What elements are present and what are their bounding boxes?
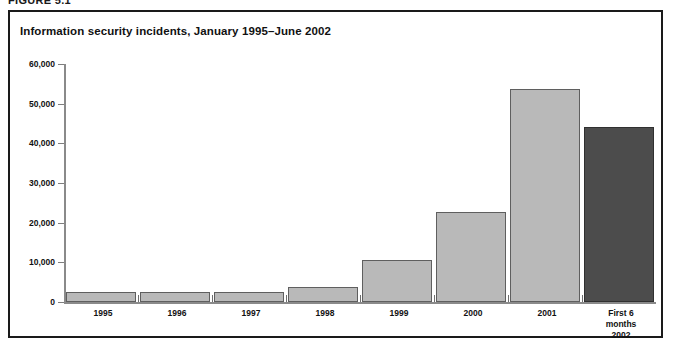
bar-slot [436,64,506,302]
bar-slot [584,64,654,302]
y-axis-tick [58,302,64,303]
y-axis-tick [58,223,64,224]
figure-caption: FIGURE 5.1 [8,0,148,6]
bar[interactable] [362,260,432,302]
y-axis-tick [58,64,64,65]
x-axis-label: 1999 [364,308,434,319]
bar[interactable] [214,292,284,302]
y-axis-tick-label: 20,000 [29,218,55,228]
bar-slot [362,64,432,302]
y-axis-tick-label: 60,000 [29,59,55,69]
x-axis-label: 1995 [68,308,138,319]
x-axis-label: 1997 [216,308,286,319]
x-axis-label-line: 2000 [438,308,508,319]
x-axis-labels: 1995199619971998199920002001First 6month… [66,308,658,342]
x-axis-label-line: 2002 [586,330,656,341]
bar-slot [288,64,358,302]
x-axis-label-line: 2001 [512,308,582,319]
y-axis-tick [58,104,64,105]
x-axis-label: 1998 [290,308,360,319]
x-axis-tick [582,295,583,302]
bar[interactable] [140,292,210,302]
bar-slot [214,64,284,302]
bar-slot [66,64,136,302]
bar[interactable] [584,127,654,302]
bar-slot [510,64,580,302]
bar[interactable] [510,89,580,302]
bar-slot [140,64,210,302]
x-axis-label-line: 1999 [364,308,434,319]
y-axis-tick [58,262,64,263]
chart-title: Information security incidents, January … [20,25,331,37]
x-axis-tick [360,295,361,302]
x-axis-tick [212,295,213,302]
figure-caption-text: FIGURE 5.1 [8,0,148,6]
bar[interactable] [288,287,358,302]
x-axis-label: 2000 [438,308,508,319]
bar[interactable] [66,292,136,302]
y-axis-tick-label: 10,000 [29,257,55,267]
x-axis-tick [434,295,435,302]
x-axis-tick [138,295,139,302]
y-axis-tick-label: 30,000 [29,178,55,188]
x-axis-tick [286,295,287,302]
x-axis-label-line: First 6 [586,308,656,319]
x-axis-line [64,302,656,304]
y-axis-tick-label: 50,000 [29,99,55,109]
x-axis-label-line: 1998 [290,308,360,319]
x-axis-label: 2001 [512,308,582,319]
x-axis-label-line: months [586,319,656,330]
figure-frame: Information security incidents, January … [8,10,663,338]
y-axis-tick-label: 0 [50,297,55,307]
y-axis-tick [58,143,64,144]
x-axis-label-line: 1995 [68,308,138,319]
y-axis-tick-label: 40,000 [29,138,55,148]
x-axis-label-line: 1996 [142,308,212,319]
x-axis-label: First 6months2002 [586,308,656,341]
x-axis-label-line: 1997 [216,308,286,319]
x-axis-tick [508,295,509,302]
bars-layer [66,64,656,302]
bar[interactable] [436,212,506,302]
y-axis-tick [58,183,64,184]
plot-area: 010,00020,00030,00040,00050,00060,000 [64,64,656,304]
x-axis-label: 1996 [142,308,212,319]
